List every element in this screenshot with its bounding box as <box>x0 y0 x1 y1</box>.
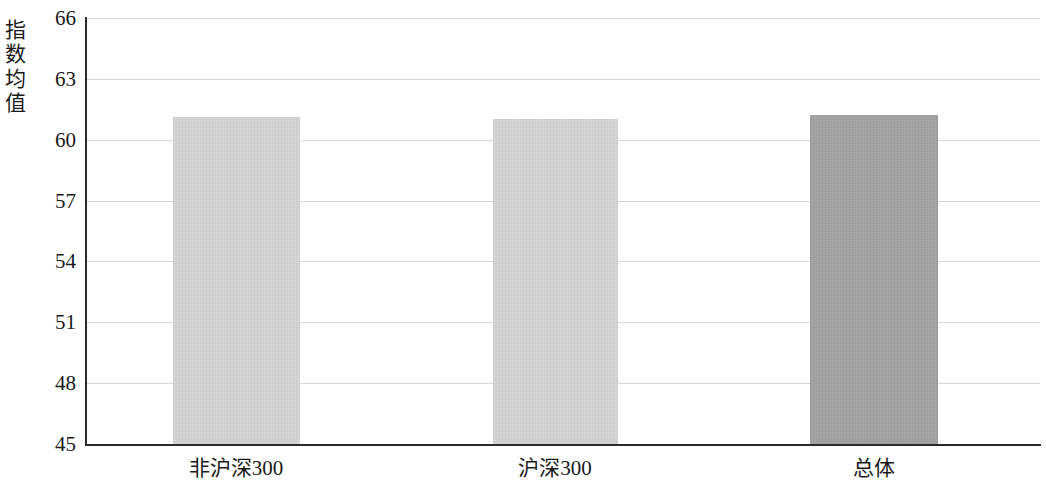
y-axis-title: 指 数 均 值 <box>2 18 28 115</box>
y-axis-tick-label: 45 <box>30 434 76 455</box>
plot-area <box>85 18 1040 444</box>
x-axis-category-label: 沪深300 <box>518 456 592 481</box>
y-axis-tick-label: 48 <box>30 373 76 394</box>
x-axis-category-label: 总体 <box>853 456 895 481</box>
bar <box>493 119 618 444</box>
bar-chart: 指 数 均 值 6663605754514845 非沪深300沪深300总体 <box>0 0 1046 493</box>
x-axis-category-labels: 非沪深300沪深300总体 <box>0 456 1046 490</box>
y-axis-tick-labels: 6663605754514845 <box>30 0 76 493</box>
y-axis-tick-label: 54 <box>30 251 76 272</box>
y-axis-tick-label: 66 <box>30 8 76 29</box>
bar-texture <box>810 115 938 444</box>
y-axis-line <box>85 17 87 446</box>
bar-texture <box>173 117 300 444</box>
y-axis-tick-label: 60 <box>30 129 76 150</box>
bar-texture <box>493 119 618 444</box>
y-axis-tick-label: 51 <box>30 312 76 333</box>
bar <box>173 117 300 444</box>
y-axis-tick-label: 57 <box>30 190 76 211</box>
bar <box>810 115 938 444</box>
gridline <box>85 18 1040 19</box>
gridline <box>85 79 1040 80</box>
x-axis-line <box>85 444 1041 446</box>
y-axis-tick-label: 63 <box>30 68 76 89</box>
x-axis-category-label: 非沪深300 <box>189 456 284 481</box>
